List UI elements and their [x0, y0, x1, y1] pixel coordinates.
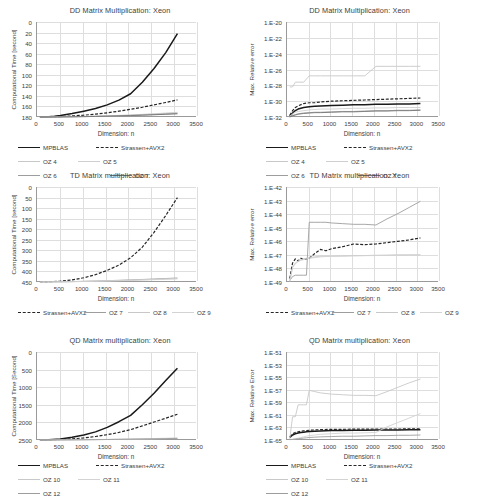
legend-label: OZ 5: [351, 158, 365, 165]
x-tick-label: 1000: [75, 285, 89, 292]
legend-item[interactable]: OZ 9: [420, 305, 464, 319]
chart-cell-td-time: TD Matrix multiplication: Xeon0500100015…: [0, 165, 240, 330]
x-tick-label: 1000: [323, 443, 337, 450]
legend-item[interactable]: MPBLAS: [266, 140, 344, 154]
legend-item[interactable]: OZ 11: [78, 472, 156, 486]
y-axis-label: Max. Relative error: [248, 187, 255, 282]
series-line-oz-4: [290, 66, 421, 87]
legend-item[interactable]: MPBLAS: [18, 140, 96, 154]
x-tick-label: 0: [34, 120, 37, 127]
y-tick-label: 1.E-28: [240, 82, 282, 89]
legend-item[interactable]: MPBLAS: [266, 458, 344, 472]
legend-label: OZ 4: [291, 158, 305, 165]
x-tick-label: 1500: [98, 120, 112, 127]
legend-label: OZ 12: [43, 490, 60, 497]
gridline-vertical: [439, 22, 440, 116]
legend-item[interactable]: OZ 10: [18, 472, 78, 486]
legend-item[interactable]: Strassen+AVX2: [96, 140, 188, 154]
legend-swatch: [266, 147, 288, 148]
legend-item[interactable]: OZ 12: [266, 486, 358, 500]
chart-legend: Strassen+AVX2OZ 7OZ 8OZ 9: [266, 305, 471, 319]
x-axis-label: Dimension: n: [98, 295, 135, 302]
x-tick-label: 3500: [431, 285, 445, 292]
y-tick-label: 1.E-42: [240, 184, 282, 191]
legend-item[interactable]: OZ 10: [266, 472, 326, 486]
legend-item[interactable]: Strassen+AVX2: [344, 140, 436, 154]
gridline-vertical: [197, 22, 198, 116]
y-tick-label: 1.E-65: [240, 437, 282, 444]
legend-item[interactable]: OZ 8: [128, 305, 172, 319]
legend-swatch: [344, 147, 366, 148]
legend-swatch: [78, 161, 100, 162]
series-layer: [37, 187, 197, 282]
y-axis-label: Computational Time [Second]: [10, 352, 17, 440]
x-axis-label: Dimension: n: [344, 130, 381, 137]
x-tick-label: 1500: [344, 443, 358, 450]
legend-item[interactable]: OZ 7: [84, 305, 128, 319]
x-tick-label: 2500: [388, 285, 402, 292]
x-tick-label: 3000: [166, 120, 180, 127]
y-tick-label: 1.E-57: [240, 386, 282, 393]
x-tick-label: 3500: [189, 285, 203, 292]
x-tick-label: 1000: [75, 443, 89, 450]
chart-legend: MPBLASStrassen+AVX2OZ 10OZ 11OZ 12: [18, 458, 232, 500]
y-tick-label: 1.E-63: [240, 424, 282, 431]
legend-swatch: [18, 479, 40, 480]
y-tick-label: 1.E-61: [240, 411, 282, 418]
x-tick-label: 1000: [323, 285, 337, 292]
gridline-vertical: [197, 352, 198, 439]
legend-item[interactable]: Strassen+AVX2: [18, 305, 84, 319]
y-tick-label: 1.E-49: [240, 279, 282, 286]
legend-label: OZ 9: [445, 309, 459, 316]
gridline-vertical: [197, 187, 198, 281]
legend-swatch: [172, 312, 194, 313]
legend-label: OZ 9: [197, 309, 211, 316]
legend-swatch: [18, 465, 40, 466]
legend-label: Strassen+AVX2: [369, 462, 412, 469]
legend-item[interactable]: Strassen+AVX2: [266, 305, 332, 319]
chart-legend: Strassen+AVX2OZ 7OZ 8OZ 9: [18, 305, 232, 319]
y-axis-label: Max. Relative error: [248, 22, 255, 117]
plot-area: [36, 22, 196, 117]
legend-item[interactable]: OZ 8: [376, 305, 420, 319]
gridline-vertical: [439, 187, 440, 281]
chart-cell-qd-time: QD Matrix multiplication: Xeon0500100015…: [0, 330, 240, 494]
legend-item[interactable]: Strassen+AVX2: [96, 458, 188, 472]
legend-label: MPBLAS: [291, 462, 316, 469]
y-tick-label: 1.E-22: [240, 34, 282, 41]
x-tick-label: 0: [284, 120, 287, 127]
x-axis-label: Dimension: n: [344, 295, 381, 302]
plot-area: [286, 22, 438, 117]
legend-label: OZ 10: [291, 476, 308, 483]
legend-item[interactable]: MPBLAS: [18, 458, 96, 472]
legend-item[interactable]: OZ 12: [18, 486, 110, 500]
series-line-oz-7: [290, 201, 421, 280]
chart-title: DD Matrix Multiplication: Xeon: [240, 6, 479, 15]
series-layer: [37, 352, 197, 440]
legend-swatch: [326, 161, 348, 162]
y-tick-label: 1.E-51: [240, 349, 282, 356]
legend-label: MPBLAS: [291, 144, 316, 151]
legend-swatch: [420, 312, 442, 313]
legend-label: Strassen+AVX2: [43, 309, 86, 316]
series-layer: [37, 22, 197, 117]
series-layer: [287, 22, 439, 117]
series-layer: [287, 352, 439, 440]
legend-swatch: [84, 312, 106, 313]
legend-swatch: [18, 493, 40, 494]
legend-swatch: [344, 465, 366, 466]
series-layer: [287, 187, 439, 282]
x-tick-label: 3000: [166, 285, 180, 292]
x-tick-label: 3000: [410, 285, 424, 292]
legend-item[interactable]: OZ 9: [172, 305, 216, 319]
y-axis-label: Max. Relative Error: [248, 352, 255, 440]
chart-cell-dd-time: DD Matrix Multiplication: Xeon0500100015…: [0, 0, 240, 165]
plot-area: [36, 352, 196, 440]
legend-swatch: [266, 465, 288, 466]
x-tick-label: 500: [54, 120, 64, 127]
legend-label: OZ 11: [103, 476, 120, 483]
legend-item[interactable]: OZ 7: [332, 305, 376, 319]
legend-item[interactable]: Strassen+AVX2: [344, 458, 436, 472]
legend-item[interactable]: OZ 11: [326, 472, 404, 486]
x-tick-label: 3000: [410, 443, 424, 450]
